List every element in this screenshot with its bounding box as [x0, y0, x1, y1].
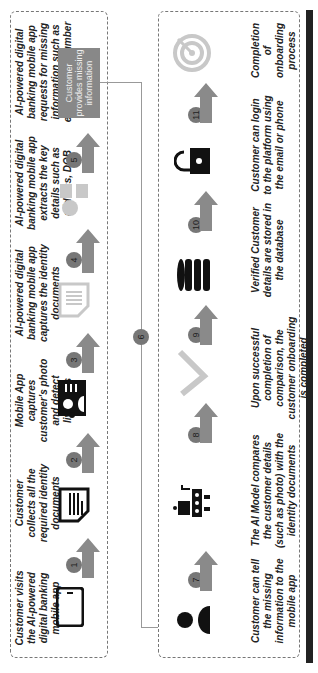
step-9-arrow-icon — [194, 315, 218, 345]
step-10-text: Verified Customer details are stored in … — [250, 195, 286, 305]
person-details-icon — [58, 182, 94, 218]
step-8-text: The AI Model compares the customer detai… — [250, 433, 298, 548]
id-card-icon — [56, 378, 92, 418]
step-10-arrow-icon — [194, 201, 218, 231]
step-1-arrow-icon — [76, 548, 100, 578]
checkmark-icon — [176, 348, 214, 398]
connector-line-vertical-right — [100, 82, 142, 83]
step-7-text: Customer can tell the missing informatio… — [250, 551, 298, 651]
step-6-badge: 6 — [133, 329, 149, 345]
step-1-text: Customer visits the AI-powered digital b… — [14, 563, 62, 653]
onboarding-process-diagram: Customer visits the AI-powered digital b… — [0, 0, 318, 673]
smartphone-icon — [56, 587, 88, 627]
customer-provides-missing-info-box: Customer provides missing information — [58, 48, 100, 118]
step-3-arrow-icon — [76, 343, 100, 373]
database-icon — [176, 257, 216, 293]
completion-text: Completion of onboarding process — [250, 18, 298, 83]
step-7-arrow-icon — [194, 561, 218, 591]
step-2-arrow-icon — [76, 443, 100, 473]
document-icon — [58, 487, 94, 523]
lock-icon — [174, 144, 216, 178]
connector-line-horizontal — [141, 82, 142, 628]
step-4-arrow-icon — [76, 243, 100, 273]
target-icon — [172, 33, 216, 73]
step-4-text: AI-powered digital banking mobile app ca… — [14, 243, 62, 343]
document-scan-icon — [58, 282, 94, 318]
step-9-text: Upon successful completion of comparison… — [250, 313, 310, 423]
step-11-arrow-icon — [194, 93, 218, 123]
robot-icon — [172, 483, 214, 523]
bottom-divider-bar — [306, 10, 313, 663]
step-2-text: Customer collects all the required ident… — [14, 463, 62, 543]
step-8-arrow-icon — [194, 413, 218, 443]
step-5-arrow-icon — [76, 143, 100, 173]
person-icon — [176, 602, 214, 638]
step-11-text: Customer can login to the platform using… — [250, 95, 286, 195]
